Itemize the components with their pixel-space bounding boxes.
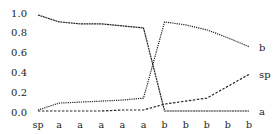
x-tick-label: sp xyxy=(33,119,44,130)
line-chart: 0.00.20.40.60.81.0 spaaaaabbbbb absp xyxy=(0,0,276,134)
x-tick-label: a xyxy=(56,119,62,130)
series-lines xyxy=(38,15,249,111)
series-label-b: b xyxy=(259,42,265,53)
series-line-b xyxy=(38,22,249,110)
series-line-sp xyxy=(38,74,249,111)
y-tick-label: 0.8 xyxy=(11,27,27,38)
y-axis-ticks: 0.00.20.40.60.81.0 xyxy=(11,8,27,118)
x-tick-label: b xyxy=(246,119,252,130)
x-axis-ticks: spaaaaabbbbb xyxy=(33,119,253,130)
x-tick-label: b xyxy=(225,119,231,130)
x-tick-label: a xyxy=(98,119,104,130)
y-tick-label: 0.0 xyxy=(11,107,27,118)
x-tick-label: a xyxy=(77,119,83,130)
y-tick-label: 0.2 xyxy=(11,87,27,98)
x-tick-label: b xyxy=(183,119,189,130)
series-label-sp: sp xyxy=(259,69,271,80)
y-tick-label: 1.0 xyxy=(11,8,27,19)
x-tick-label: a xyxy=(141,119,147,130)
x-tick-label: a xyxy=(120,119,126,130)
series-label-a: a xyxy=(259,106,265,117)
series-labels: absp xyxy=(259,42,271,117)
y-tick-label: 0.6 xyxy=(11,47,27,58)
x-tick-label: b xyxy=(204,119,210,130)
y-tick-label: 0.4 xyxy=(11,67,27,78)
x-tick-label: b xyxy=(162,119,168,130)
